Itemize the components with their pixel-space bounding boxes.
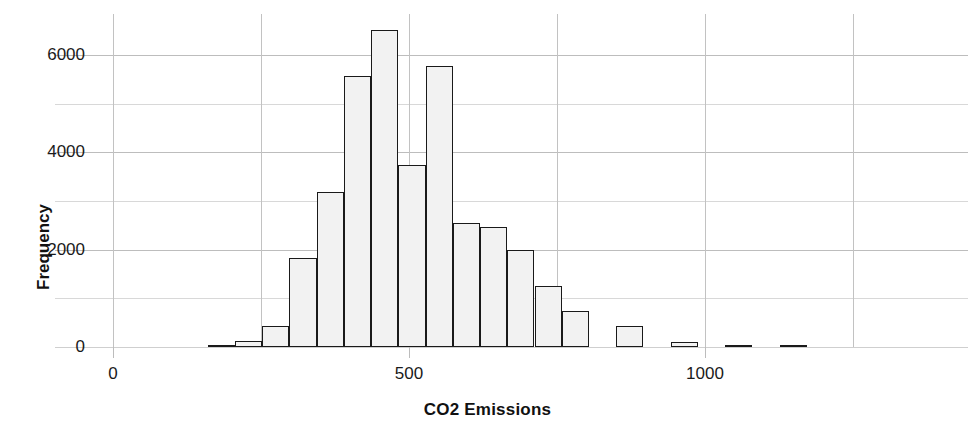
y-axis-title: Frequency bbox=[34, 204, 54, 290]
x-axis-title: CO2 Emissions bbox=[0, 400, 975, 420]
x-axis-tick-label: 1000 bbox=[665, 364, 745, 384]
y-axis-title-wrap: Frequency bbox=[8, 0, 40, 380]
x-axis-tick-mark bbox=[409, 347, 410, 358]
x-axis-tick-mark bbox=[705, 347, 706, 358]
plot-area: 020004000600005001000 bbox=[0, 0, 975, 430]
x-axis-tick-mark bbox=[113, 347, 114, 358]
axis-annotations: 020004000600005001000 bbox=[0, 0, 975, 430]
x-axis-tick-label: 0 bbox=[73, 364, 153, 384]
x-axis-tick-label: 500 bbox=[369, 364, 449, 384]
histogram-figure: 020004000600005001000 Frequency CO2 Emis… bbox=[0, 0, 975, 430]
